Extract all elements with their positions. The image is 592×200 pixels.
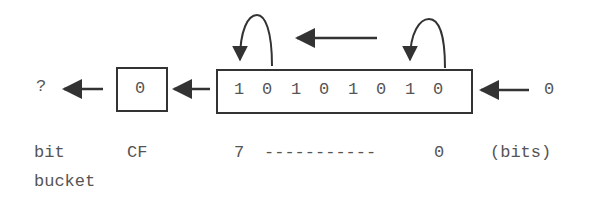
register-bit-7: 1 bbox=[234, 80, 244, 100]
register-bit-2: 0 bbox=[376, 80, 386, 100]
register-bit-4: 0 bbox=[319, 80, 329, 100]
label-dashes: ----------- bbox=[264, 143, 376, 163]
shift-in-value: 0 bbox=[544, 80, 554, 100]
label-bit: bit bbox=[34, 143, 65, 163]
carry-flag-value: 0 bbox=[135, 79, 145, 99]
arc-arrow-left bbox=[240, 15, 272, 66]
register-bit-6: 0 bbox=[262, 80, 272, 100]
label-cf: CF bbox=[127, 143, 147, 163]
register-bit-5: 1 bbox=[291, 80, 301, 100]
bit-bucket-symbol: ? bbox=[36, 77, 46, 97]
label-low-bit: 0 bbox=[434, 143, 444, 163]
label-bits-unit: (bits) bbox=[490, 143, 551, 163]
arc-arrow-right bbox=[410, 19, 445, 68]
register-bit-3: 1 bbox=[348, 80, 358, 100]
label-high-bit: 7 bbox=[234, 143, 244, 163]
register-bit-1: 1 bbox=[405, 80, 415, 100]
label-bucket: bucket bbox=[34, 172, 95, 192]
register-bit-0: 0 bbox=[433, 80, 443, 100]
